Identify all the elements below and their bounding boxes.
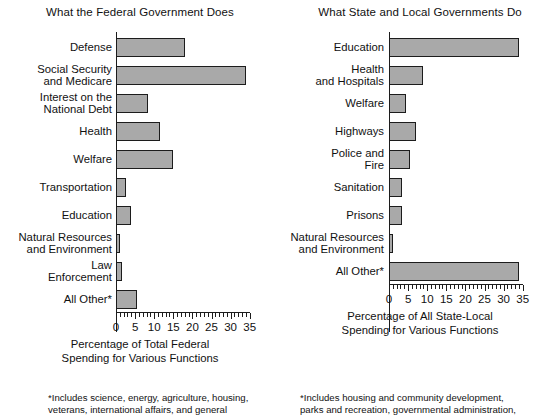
footnote-federal: *Includes science, energy, agriculture, … [48, 392, 273, 415]
x-tick-major [504, 285, 505, 291]
category-label: Natural Resources and Environment [281, 231, 384, 256]
bar [389, 206, 402, 225]
footnote-state-local: *Includes housing and community developm… [300, 392, 555, 415]
bar [389, 66, 423, 85]
x-tick-minor [473, 285, 474, 289]
x-tick-minor [397, 285, 398, 289]
x-tick-label: 35 [243, 321, 256, 333]
x-tick-minor [412, 285, 413, 289]
x-tick-minor [500, 285, 501, 289]
x-tick-minor [515, 285, 516, 289]
category-label: Law Enforcement [2, 259, 112, 284]
x-tick-major [231, 313, 232, 319]
x-tick-minor [162, 313, 163, 317]
bar [389, 94, 406, 113]
x-tick-label: 35 [516, 293, 529, 305]
chart-title-federal: What the Federal Government Does [0, 6, 280, 18]
x-tick-minor [238, 313, 239, 317]
x-tick-labels: 05101520253035 [280, 293, 560, 307]
x-tick-minor [416, 285, 417, 289]
x-tick-minor [462, 285, 463, 289]
x-tick-minor [200, 313, 201, 317]
category-label: Health [2, 125, 112, 138]
x-tick-major [116, 313, 117, 319]
chart-title-state-local: What State and Local Governments Do [280, 6, 560, 18]
x-tick-label: 10 [421, 293, 434, 305]
x-tick-minor [204, 313, 205, 317]
category-label: Police and Fire [281, 147, 384, 172]
x-tick-minor [181, 313, 182, 317]
category-label: Welfare [2, 153, 112, 166]
x-tick-minor [219, 313, 220, 317]
bar [116, 234, 120, 253]
x-tick-minor [215, 313, 216, 317]
bar [389, 262, 519, 281]
x-tick-minor [147, 313, 148, 317]
bar [116, 38, 185, 57]
x-tick-minor [223, 313, 224, 317]
x-tick-minor [481, 285, 482, 289]
x-tick-major [250, 313, 251, 319]
x-tick-major [446, 285, 447, 291]
bar [116, 150, 173, 169]
x-tick-minor [143, 313, 144, 317]
x-tick-label: 15 [440, 293, 453, 305]
bar [389, 38, 519, 57]
x-tick-major [154, 313, 155, 319]
x-tick-minor [458, 285, 459, 289]
figure-two-bar-charts: What the Federal Government Does Defense… [0, 0, 560, 420]
chart-panel-state-local: What State and Local Governments Do Educ… [280, 0, 560, 420]
bar [116, 178, 126, 197]
x-tick-major [389, 285, 390, 291]
x-tick-label: 5 [405, 293, 411, 305]
bar [116, 206, 131, 225]
x-tick-label: 25 [478, 293, 491, 305]
x-tick-minor [242, 313, 243, 317]
x-tick-minor [196, 313, 197, 317]
x-tick-major [523, 285, 524, 291]
bar [389, 178, 402, 197]
bar [116, 262, 122, 281]
x-tick-major [408, 285, 409, 291]
x-tick-minor [150, 313, 151, 317]
x-tick-minor [139, 313, 140, 317]
x-tick-minor [511, 285, 512, 289]
x-tick-minor [124, 313, 125, 317]
x-tick-minor [393, 285, 394, 289]
bar [389, 150, 410, 169]
x-tick-label: 30 [497, 293, 510, 305]
category-label: All Other* [2, 293, 112, 306]
x-tick-minor [127, 313, 128, 317]
category-label: Transportation [2, 181, 112, 194]
x-tick-minor [189, 313, 190, 317]
x-tick-minor [177, 313, 178, 317]
category-label: Interest on the National Debt [2, 91, 112, 116]
x-tick-label: 10 [148, 321, 161, 333]
x-tick-minor [454, 285, 455, 289]
x-tick-minor [246, 313, 247, 317]
x-tick-major [135, 313, 136, 319]
x-tick-label: 20 [459, 293, 472, 305]
x-tick-major [465, 285, 466, 291]
x-tick-minor [435, 285, 436, 289]
x-tick-minor [400, 285, 401, 289]
x-tick-label: 30 [224, 321, 237, 333]
x-tick-minor [166, 313, 167, 317]
x-tick-major [485, 285, 486, 291]
category-label: Prisons [281, 209, 384, 222]
x-tick-minor [185, 313, 186, 317]
x-tick-label: 15 [167, 321, 180, 333]
x-tick-label: 25 [205, 321, 218, 333]
x-tick-minor [519, 285, 520, 289]
x-tick-labels: 05101520253035 [0, 321, 280, 335]
bar [116, 122, 160, 141]
x-axis-title-federal: Percentage of Total Federal Spending for… [0, 338, 280, 365]
x-tick-minor [496, 285, 497, 289]
category-label: Natural Resources and Environment [2, 231, 112, 256]
category-label: Education [2, 209, 112, 222]
x-tick-major [212, 313, 213, 319]
bar [116, 290, 137, 309]
bar [116, 94, 148, 113]
x-tick-minor [169, 313, 170, 317]
x-tick-minor [442, 285, 443, 289]
